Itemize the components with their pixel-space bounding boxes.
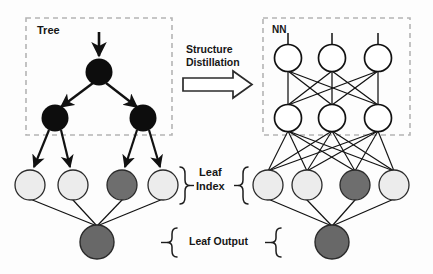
nn-box-label: NN [272,24,286,35]
nn-output-node [315,225,349,259]
nn-node-h2c [365,105,392,132]
tree-output-edges [30,199,163,226]
nn-leaf-node-0 [253,170,283,200]
tree-leaf-node-group [15,170,178,200]
tree-node-group [42,59,157,132]
structure-distillation-label: Structure Distillation [186,43,240,69]
nn-node-h2a [275,105,302,132]
nn-edges-layer1-layer2 [288,71,378,105]
structure-distillation-line1: Structure [186,43,240,56]
leaf-output-right-brace [271,228,281,257]
tree-leaf-node-3 [148,170,178,200]
tree-output-node [80,225,114,259]
nn-node-h1a [275,45,302,72]
nn-edges-layer2-leaf [268,131,394,171]
tree-left-node [42,105,69,132]
nn-leaf-node-1 [292,170,322,200]
nn-leaf-node-3 [379,170,409,200]
diagram-canvas [0,0,433,274]
tree-box-label: Tree [37,24,60,36]
nn-hidden-layer-2 [275,105,392,132]
nn-node-h2b [319,105,346,132]
nn-hidden-layer-1 [275,45,392,72]
tree-right-node [130,105,157,132]
nn-node-h1b [319,45,346,72]
leaf-output-label: Leaf Output [189,235,248,247]
leaf-index-left-brace [180,167,190,204]
structure-distillation-arrow [183,71,252,98]
tree-internal-edges [61,83,137,107]
structure-distillation-line2: Distillation [186,56,240,69]
nn-input-stubs [288,33,378,45]
tree-leaf-node-0 [15,170,45,200]
leaf-index-line2: Index [196,180,225,194]
leaf-index-line1: Leaf [196,166,225,180]
nn-edges-leaf-output [268,199,394,226]
tree-root-node [86,59,113,86]
distillation-diagram: Tree NN Structure Distillation Leaf Inde… [0,0,433,274]
nn-leaf-node-2-selected [340,170,370,200]
leaf-index-right-brace [238,167,248,204]
nn-leaf-node-group [253,170,409,200]
leaf-index-label: Leaf Index [196,166,225,193]
tree-leaf-node-1 [58,170,88,200]
leaf-output-left-brace [167,228,177,257]
nn-node-h1c [365,45,392,72]
tree-leaf-node-2-selected [107,170,137,200]
